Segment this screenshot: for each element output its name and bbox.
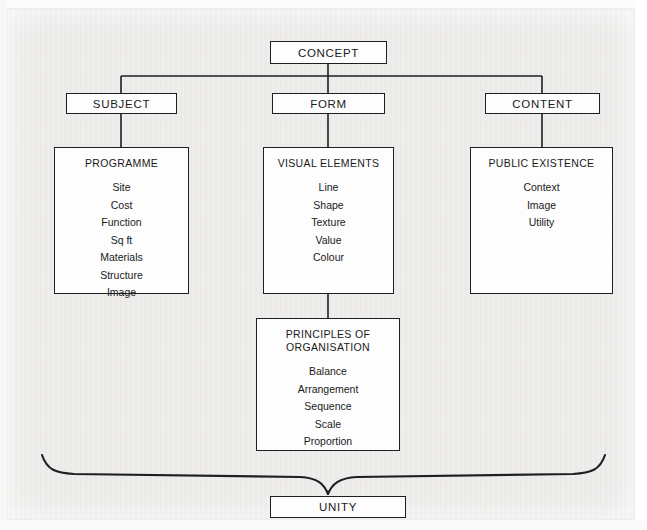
list-item: Scale xyxy=(257,416,399,434)
list-item: Sq ft xyxy=(55,232,188,250)
panel-visual-elements[interactable]: VISUAL ELEMENTS LineShapeTextureValueCol… xyxy=(263,147,394,294)
node-subject-label: SUBJECT xyxy=(93,98,150,110)
panel-visual-elements-title: VISUAL ELEMENTS xyxy=(264,157,393,170)
list-item: Value xyxy=(264,232,393,250)
list-item: Context xyxy=(471,179,612,197)
node-form[interactable]: FORM xyxy=(272,93,385,114)
list-item: Colour xyxy=(264,249,393,267)
node-content-label: CONTENT xyxy=(512,98,572,110)
unity-brace xyxy=(42,455,605,494)
panel-public-existence[interactable]: PUBLIC EXISTENCE ContextImageUtility xyxy=(470,147,613,294)
list-item: Line xyxy=(264,179,393,197)
node-concept[interactable]: CONCEPT xyxy=(270,41,387,64)
node-content[interactable]: CONTENT xyxy=(485,93,600,114)
panel-public-existence-title: PUBLIC EXISTENCE xyxy=(471,157,612,170)
list-item: Site xyxy=(55,179,188,197)
panel-programme-title: PROGRAMME xyxy=(55,157,188,170)
list-item: Texture xyxy=(264,214,393,232)
node-unity[interactable]: UNITY xyxy=(270,496,406,518)
list-item: Proportion xyxy=(257,433,399,451)
panel-principles-list: BalanceArrangementSequenceScaleProportio… xyxy=(257,363,399,451)
list-item: Cost xyxy=(55,197,188,215)
list-item: Structure xyxy=(55,267,188,285)
node-concept-label: CONCEPT xyxy=(298,47,359,59)
panel-public-existence-list: ContextImageUtility xyxy=(471,179,612,232)
diagram-page: CONCEPT SUBJECT FORM CONTENT PROGRAMME S… xyxy=(0,0,647,530)
list-item: Function xyxy=(55,214,188,232)
panel-visual-elements-list: LineShapeTextureValueColour xyxy=(264,179,393,267)
node-unity-label: UNITY xyxy=(319,501,357,513)
node-subject[interactable]: SUBJECT xyxy=(66,93,177,114)
panel-principles-title: PRINCIPLES OF ORGANISATION xyxy=(257,328,399,354)
list-item: Sequence xyxy=(257,398,399,416)
list-item: Utility xyxy=(471,214,612,232)
panel-programme-list: SiteCostFunctionSq ftMaterialsStructureI… xyxy=(55,179,188,302)
panel-programme[interactable]: PROGRAMME SiteCostFunctionSq ftMaterials… xyxy=(54,147,189,294)
list-item: Materials xyxy=(55,249,188,267)
node-form-label: FORM xyxy=(310,98,347,110)
list-item: Image xyxy=(471,197,612,215)
panel-principles-of-organisation[interactable]: PRINCIPLES OF ORGANISATION BalanceArrang… xyxy=(256,318,400,451)
list-item: Arrangement xyxy=(257,381,399,399)
list-item: Balance xyxy=(257,363,399,381)
list-item: Image xyxy=(55,284,188,302)
list-item: Shape xyxy=(264,197,393,215)
